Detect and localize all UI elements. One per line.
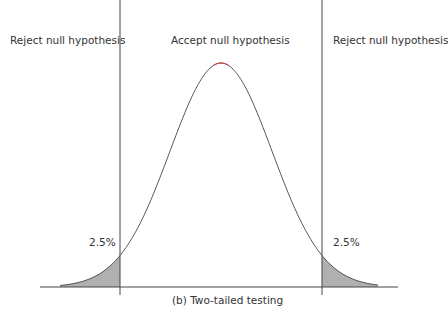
left-rejection-region [60, 255, 120, 287]
bell-curve [60, 63, 378, 285]
curve-peak-accent [213, 63, 229, 66]
right-rejection-region [322, 255, 378, 287]
